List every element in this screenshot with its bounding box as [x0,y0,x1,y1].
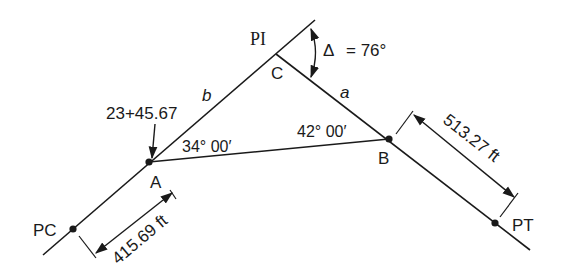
label-b: B [378,149,389,168]
delta-symbol: Δ [323,41,334,60]
label-pc: PC [33,221,57,240]
station-leader-arrow [152,124,155,158]
point-a [145,158,152,165]
back-tangent-line [43,20,315,255]
label-a: A [150,173,162,192]
side-label-b: b [202,86,211,105]
label-pt: PT [512,216,534,235]
angle-a-label: 34° 00′ [182,138,231,155]
side-label-a: a [340,83,349,102]
dim-ext-b [396,111,413,134]
dim-label-pc-a: 415.69 ft [108,211,171,268]
label-c: C [271,64,283,83]
angle-b-label: 42° 00′ [297,123,346,140]
delta-angle-arc [311,29,316,77]
dim-ext-pc [79,236,96,258]
point-pc [69,225,76,232]
point-b [385,135,392,142]
dim-ext-pt [500,193,518,217]
label-pi: PI [250,29,266,49]
point-pt [491,219,498,226]
delta-value: = 76° [346,41,386,60]
station-label: 23+45.67 [106,104,177,123]
curve-geometry-diagram: PI C A B PC PT b a 23+45.67 Δ = 76° 34° … [0,0,564,280]
dim-label-b-pt: 513.27 ft [440,110,504,166]
